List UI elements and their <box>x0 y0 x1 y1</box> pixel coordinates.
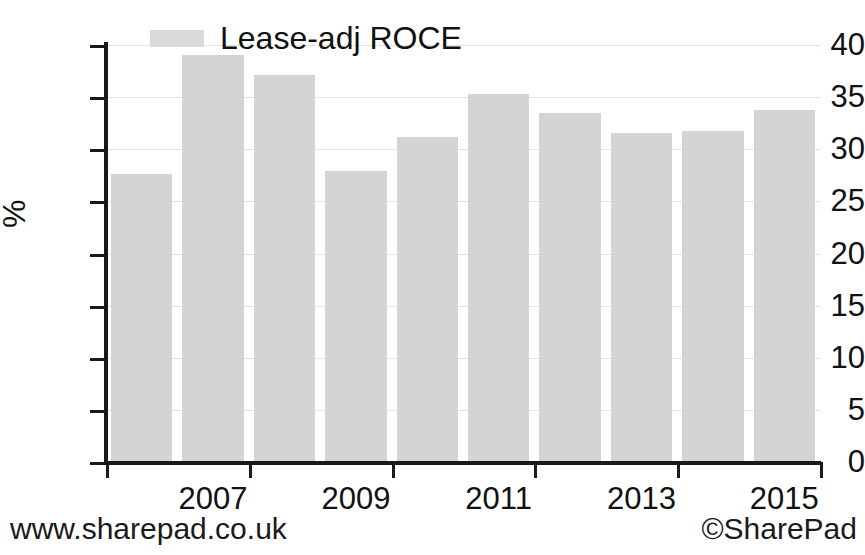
y-tick-label-25: 25 <box>781 185 865 216</box>
bar-slot <box>320 45 391 462</box>
y-tick <box>90 201 106 204</box>
x-tick-label-2013: 2013 <box>572 482 712 515</box>
y-tick <box>90 45 106 48</box>
bar-2014[interactable] <box>682 131 743 463</box>
bar-2007[interactable] <box>182 55 243 462</box>
x-tick <box>534 462 537 478</box>
y-tick-label-5: 5 <box>781 394 865 425</box>
x-tick-label-2007: 2007 <box>143 482 283 515</box>
x-tick <box>820 462 823 478</box>
bar-slot <box>249 45 320 462</box>
bar-2012[interactable] <box>539 113 600 462</box>
bar-slot <box>534 45 605 462</box>
y-axis-title: % <box>0 200 30 228</box>
x-tick <box>392 462 395 478</box>
x-tick <box>106 462 109 478</box>
plot-area <box>106 45 820 462</box>
bar-slot <box>463 45 534 462</box>
bar-slot <box>677 45 748 462</box>
y-tick-label-10: 10 <box>781 342 865 373</box>
bar-2008[interactable] <box>254 75 315 462</box>
bar-slot <box>106 45 177 462</box>
bar-series-lease-adj-roce <box>106 45 820 462</box>
bar-2013[interactable] <box>611 133 672 462</box>
bar-slot <box>392 45 463 462</box>
y-tick-label-35: 35 <box>781 81 865 112</box>
footer-copyright: ©SharePad <box>701 513 857 545</box>
y-tick-label-40: 40 <box>781 29 865 60</box>
x-tick-label-2009: 2009 <box>286 482 426 515</box>
y-tick <box>90 358 106 361</box>
x-axis-line <box>104 461 821 465</box>
y-tick-label-20: 20 <box>781 238 865 269</box>
bar-2006[interactable] <box>111 174 172 462</box>
y-tick <box>90 97 106 100</box>
legend-swatch-lease-adj-roce <box>150 30 204 47</box>
bar-slot <box>606 45 677 462</box>
x-tick-label-2015: 2015 <box>714 482 854 515</box>
x-tick-label-2011: 2011 <box>429 482 569 515</box>
y-tick <box>90 149 106 152</box>
x-tick <box>677 462 680 478</box>
y-tick <box>90 254 106 257</box>
x-tick <box>249 462 252 478</box>
bar-2010[interactable] <box>397 137 458 462</box>
y-tick <box>90 306 106 309</box>
y-tick-label-30: 30 <box>781 133 865 164</box>
bar-2009[interactable] <box>325 171 386 462</box>
footer-website: www.sharepad.co.uk <box>10 513 287 545</box>
bar-chart: 0510152025303540 % 20072009201120132015 … <box>0 0 865 555</box>
y-tick-label-15: 15 <box>781 290 865 321</box>
bar-slot <box>177 45 248 462</box>
bar-2011[interactable] <box>468 94 529 462</box>
legend-label-lease-adj-roce: Lease-adj ROCE <box>220 22 462 54</box>
y-tick <box>90 410 106 413</box>
chart-legend: Lease-adj ROCE <box>150 22 462 54</box>
